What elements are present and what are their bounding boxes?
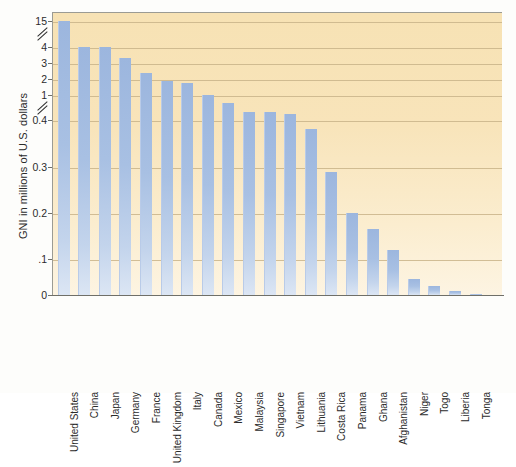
y-axis-tick-label: 15	[8, 15, 52, 27]
x-axis-tick-label: Ghana	[378, 389, 389, 467]
y-axis-line	[52, 12, 53, 296]
axis-break-icon	[36, 102, 50, 113]
x-axis-tick-label: Japan	[110, 389, 121, 467]
x-axis-tick-label: Niger	[419, 389, 430, 467]
x-axis-tick-label: Malaysia	[254, 389, 265, 467]
bar	[78, 47, 90, 295]
x-axis-tick-label: Costa Rica	[336, 389, 347, 467]
bar-series	[52, 13, 502, 295]
bar	[284, 114, 296, 295]
x-axis-tick-label: Tonga	[481, 389, 492, 467]
x-axis-tick-label: United States	[69, 389, 80, 467]
y-axis-tick-label: 0.3	[8, 161, 52, 173]
y-axis-tick-label: 1	[8, 89, 52, 101]
x-axis-tick-label: Mexico	[233, 389, 244, 467]
x-axis-tick-label: Italy	[192, 389, 203, 467]
bar	[58, 21, 70, 295]
y-axis-tick-label: 0	[8, 289, 52, 301]
bar	[202, 95, 214, 295]
y-axis-tick-label: 2	[8, 73, 52, 85]
x-axis-line	[52, 295, 504, 296]
x-axis-tick-label: Germany	[130, 389, 141, 467]
bar	[243, 112, 255, 295]
x-axis-tick-label: Afghanistan	[398, 389, 409, 467]
bar	[408, 279, 420, 295]
axis-break-icon	[36, 29, 50, 40]
bar	[264, 112, 276, 295]
bar	[161, 81, 173, 295]
bar	[305, 129, 317, 295]
x-axis-tick-label: Panama	[357, 389, 368, 467]
bar	[387, 250, 399, 295]
x-axis-tick-label: France	[151, 389, 162, 467]
y-axis-tick-group: 1543210.40.30.2.10	[0, 0, 52, 310]
x-axis-tick-label: Canada	[213, 389, 224, 467]
bar	[181, 83, 193, 295]
x-axis-tick-label: Togo	[439, 389, 450, 467]
bar	[140, 73, 152, 295]
x-axis-tick-label: Liberia	[460, 389, 471, 467]
x-axis-tick-label: Vietnam	[295, 389, 306, 467]
x-axis-tick-label: Singapore	[275, 389, 286, 467]
x-axis-tick-group: United StatesChinaJapanGermanyFranceUnit…	[52, 299, 504, 391]
plot-area	[52, 12, 502, 295]
y-axis-tick-label: 3	[8, 57, 52, 69]
y-axis-tick-label: 4	[8, 41, 52, 53]
bar	[222, 103, 234, 295]
bar	[367, 229, 379, 295]
x-axis-tick-label: United Kingdom	[172, 389, 183, 467]
y-axis-tick-label: .1	[8, 253, 52, 265]
y-axis-tick-label: 0.2	[8, 207, 52, 219]
x-axis-tick-label: Lithuania	[316, 389, 327, 467]
bar	[346, 213, 358, 295]
bar	[119, 58, 131, 295]
bar	[99, 47, 111, 295]
bar	[428, 286, 440, 295]
y-axis-tick-label: 0.4	[8, 114, 52, 126]
bar	[325, 172, 337, 295]
x-axis-tick-label: China	[89, 389, 100, 467]
